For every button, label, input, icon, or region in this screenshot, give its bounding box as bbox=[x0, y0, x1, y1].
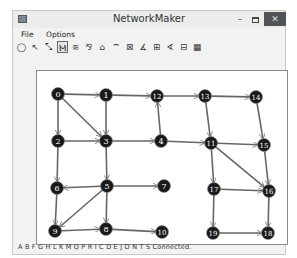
node-label: 16 bbox=[265, 188, 274, 196]
node-5[interactable]: 5 bbox=[101, 180, 114, 193]
node-16[interactable]: 16 bbox=[263, 185, 276, 198]
node-label: 7 bbox=[161, 182, 166, 191]
node-label: 12 bbox=[153, 93, 162, 101]
minimize-button[interactable]: – bbox=[233, 12, 247, 26]
node-19[interactable]: 19 bbox=[207, 227, 220, 240]
node-label: 14 bbox=[252, 94, 261, 102]
node-10[interactable]: 10 bbox=[156, 226, 169, 239]
node-6[interactable]: 6 bbox=[51, 182, 64, 195]
add-two-way-link-tool-button[interactable]: ⤡ bbox=[43, 41, 54, 53]
app-window: NetworkMaker – ✕ File Options ◯↖⤡Ⲙ≋⅋⌂⌔⊠∡… bbox=[12, 10, 286, 255]
node-label: 17 bbox=[210, 186, 219, 194]
edge-6-9[interactable] bbox=[55, 194, 56, 224]
network-canvas[interactable]: 012345678910111213141516171819 bbox=[36, 70, 288, 245]
node-0[interactable]: 0 bbox=[52, 88, 65, 101]
menu-bar: File Options bbox=[13, 29, 285, 40]
edge-1-12[interactable] bbox=[112, 95, 150, 96]
node-label: 2 bbox=[55, 137, 60, 146]
add-link-tool-button[interactable]: ↖ bbox=[30, 41, 41, 53]
label-tool-1-button[interactable]: ∡ bbox=[138, 41, 149, 53]
menu-options[interactable]: Options bbox=[46, 30, 75, 39]
node-1[interactable]: 1 bbox=[100, 89, 113, 102]
title-bar[interactable]: NetworkMaker – ✕ bbox=[13, 11, 285, 28]
node-label: 1 bbox=[103, 91, 108, 100]
node-7[interactable]: 7 bbox=[158, 180, 171, 193]
add-node-tool-button[interactable]: ◯ bbox=[16, 41, 27, 53]
edge-15-16[interactable] bbox=[265, 151, 269, 184]
grid-tool-button[interactable]: ▦ bbox=[192, 41, 203, 53]
node-label: 0 bbox=[55, 90, 60, 99]
toolbar: ◯↖⤡Ⲙ≋⅋⌂⌔⊠∡⊞∢⊟▦ bbox=[16, 41, 216, 54]
edge-9-8[interactable] bbox=[61, 229, 99, 230]
node-17[interactable]: 17 bbox=[208, 183, 221, 196]
node-label: 10 bbox=[158, 229, 167, 237]
edge-4-11[interactable] bbox=[167, 141, 204, 142]
node-label: 5 bbox=[104, 182, 109, 191]
edge-13-14[interactable] bbox=[211, 96, 249, 97]
node-15[interactable]: 15 bbox=[258, 139, 271, 152]
node-14[interactable]: 14 bbox=[250, 91, 263, 104]
node-13[interactable]: 13 bbox=[199, 90, 212, 103]
menu-file[interactable]: File bbox=[21, 30, 34, 39]
node-label: 4 bbox=[158, 137, 163, 146]
node-label: 11 bbox=[207, 140, 216, 148]
network-graph[interactable]: 012345678910111213141516171819 bbox=[37, 71, 287, 244]
node-label: 13 bbox=[201, 93, 210, 101]
node-12[interactable]: 12 bbox=[151, 90, 164, 103]
status-bar: A B F G H L K M Q P R I C D E J O N T S … bbox=[18, 243, 192, 251]
edge-4-12[interactable] bbox=[158, 102, 161, 134]
edge-16-18[interactable] bbox=[268, 197, 269, 226]
spanning-tree-tool-button[interactable]: ⅋ bbox=[84, 41, 95, 53]
edge-11-17[interactable] bbox=[211, 149, 213, 182]
tree-tool-button[interactable]: ≋ bbox=[70, 41, 81, 53]
shortest-path-tool-button[interactable]: ⌂ bbox=[97, 41, 108, 53]
node-11[interactable]: 11 bbox=[205, 137, 218, 150]
node-9[interactable]: 9 bbox=[49, 225, 62, 238]
node-2[interactable]: 2 bbox=[52, 135, 65, 148]
edge-13-11[interactable] bbox=[206, 102, 210, 136]
node-18[interactable]: 18 bbox=[262, 227, 275, 240]
edge-17-16[interactable] bbox=[220, 189, 262, 191]
edge-17-19[interactable] bbox=[213, 195, 214, 226]
node-label: 15 bbox=[260, 142, 269, 150]
node-8[interactable]: 8 bbox=[100, 223, 113, 236]
edge-3-5[interactable] bbox=[106, 147, 107, 179]
path-tool-button[interactable]: Ⲙ bbox=[57, 41, 68, 53]
edge-0-1[interactable] bbox=[64, 94, 99, 95]
node-label: 19 bbox=[209, 230, 218, 238]
edge-5-6[interactable] bbox=[63, 186, 100, 187]
edge-14-15[interactable] bbox=[257, 103, 263, 138]
edge-5-8[interactable] bbox=[106, 192, 107, 222]
node-label: 3 bbox=[103, 137, 108, 146]
node-label: 6 bbox=[54, 184, 59, 193]
close-button[interactable]: ✕ bbox=[264, 12, 286, 26]
path-tree-tool-button[interactable]: ⌔ bbox=[111, 41, 122, 53]
node-label: 18 bbox=[264, 230, 273, 238]
connectivity-tool-button[interactable]: ⊠ bbox=[124, 41, 135, 53]
edge-8-10[interactable] bbox=[112, 229, 155, 231]
label-tool-3-button[interactable]: ∢ bbox=[165, 41, 176, 53]
edge-2-6[interactable] bbox=[57, 147, 58, 181]
node-3[interactable]: 3 bbox=[100, 135, 113, 148]
edge-11-16[interactable] bbox=[216, 147, 264, 187]
maximize-icon bbox=[252, 17, 259, 23]
edge-11-15[interactable] bbox=[217, 143, 257, 145]
label-tool-2-button[interactable]: ⊞ bbox=[151, 41, 162, 53]
maximize-button[interactable] bbox=[249, 12, 261, 26]
edge-5-9[interactable] bbox=[60, 190, 102, 226]
node-label: 9 bbox=[52, 227, 57, 236]
node-4[interactable]: 4 bbox=[155, 135, 168, 148]
edge-0-3[interactable] bbox=[63, 99, 102, 137]
node-label: 8 bbox=[103, 225, 108, 234]
label-tool-4-button[interactable]: ⊟ bbox=[178, 41, 189, 53]
